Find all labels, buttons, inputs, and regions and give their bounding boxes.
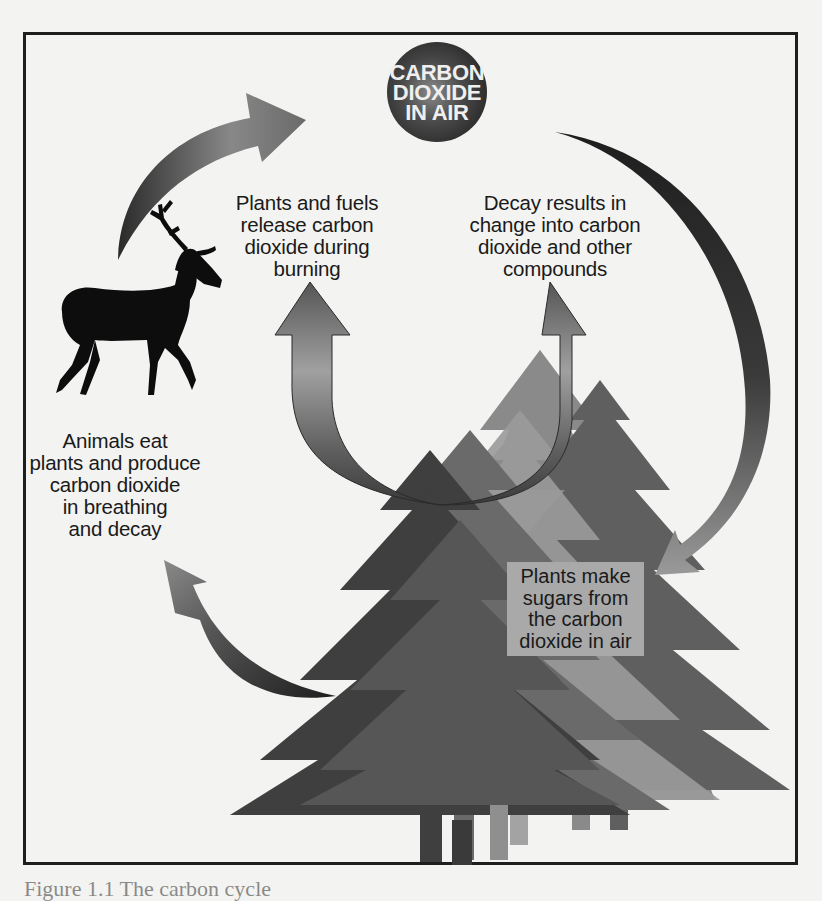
label-line: the carbon [513, 609, 638, 631]
co2-node-label: CARBON DIOXIDE IN AIR [387, 63, 487, 123]
plants-fuels-label: Plants and fuels release carbon dioxide … [222, 192, 392, 280]
deer-silhouette-icon [56, 200, 222, 395]
label-line: dioxide and other [460, 236, 650, 258]
label-line: Decay results in [460, 192, 650, 214]
plants-sugar-label: Plants make sugars from the carbon dioxi… [507, 562, 644, 656]
label-line: sugars from [513, 588, 638, 610]
figure-caption: Figure 1.1 The carbon cycle [24, 878, 271, 900]
label-line: in breathing [20, 496, 210, 518]
label-line: Animals eat [20, 430, 210, 452]
co2-line-3: IN AIR [387, 103, 487, 123]
label-line: and decay [20, 518, 210, 540]
label-line: Plants and fuels [222, 192, 392, 214]
label-line: release carbon [222, 214, 392, 236]
label-line: carbon dioxide [20, 474, 210, 496]
label-line: Plants make [513, 566, 638, 588]
animals-label: Animals eat plants and produce carbon di… [20, 430, 210, 540]
label-line: compounds [460, 258, 650, 280]
label-line: dioxide in air [513, 631, 638, 653]
label-line: plants and produce [20, 452, 210, 474]
label-line: dioxide during [222, 236, 392, 258]
decay-label: Decay results in change into carbon diox… [460, 192, 650, 280]
label-line: change into carbon [460, 214, 650, 236]
label-line: burning [222, 258, 392, 280]
